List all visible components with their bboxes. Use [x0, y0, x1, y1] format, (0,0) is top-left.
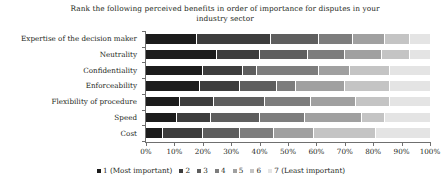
bar-segment[interactable]	[177, 113, 211, 122]
x-axis-tick-label: 0%	[140, 147, 151, 157]
legend-label: 6	[257, 166, 262, 175]
legend-swatch-icon	[179, 169, 183, 173]
bar-segment[interactable]	[274, 128, 314, 137]
bar-segment[interactable]	[390, 97, 430, 106]
bar-segment[interactable]	[308, 50, 345, 59]
legend-label: 3	[203, 166, 208, 175]
y-axis-label: Flexibility of procedure	[0, 94, 141, 110]
y-axis-label: Cost	[0, 125, 141, 141]
bar-segment[interactable]	[200, 81, 240, 90]
x-axis-tick-label: 70%	[337, 147, 353, 157]
bar-segment[interactable]	[296, 81, 344, 90]
bar-segment[interactable]	[410, 50, 430, 59]
stacked-bar[interactable]	[146, 128, 430, 137]
legend-item[interactable]: 2	[179, 166, 190, 175]
bar-segment[interactable]	[214, 97, 265, 106]
bar-segment[interactable]	[265, 97, 310, 106]
stacked-bar[interactable]	[146, 34, 430, 43]
stacked-bar[interactable]	[146, 113, 430, 122]
bar-segment[interactable]	[257, 66, 319, 75]
bar-segment[interactable]	[382, 50, 410, 59]
bar-segment[interactable]	[211, 113, 259, 122]
bar-segment[interactable]	[390, 66, 430, 75]
y-axis-tick	[142, 62, 145, 63]
bar-segment[interactable]	[362, 113, 385, 122]
bar-segment[interactable]	[356, 97, 390, 106]
bar-segment[interactable]	[146, 128, 163, 137]
bar-segment[interactable]	[197, 34, 271, 43]
bar-segment[interactable]	[311, 97, 356, 106]
x-axis-tick-label: 80%	[365, 147, 381, 157]
x-axis-tick	[231, 143, 232, 146]
bar-segment[interactable]	[319, 66, 350, 75]
x-axis-tick-label: 20%	[195, 147, 211, 157]
legend-label: 5	[239, 166, 244, 175]
bar-segment[interactable]	[277, 81, 297, 90]
bar-segment[interactable]	[390, 81, 430, 90]
x-axis-tick	[288, 143, 289, 146]
legend-swatch-icon	[215, 169, 219, 173]
bar-segment[interactable]	[350, 66, 390, 75]
bar-segment[interactable]	[345, 81, 390, 90]
bar-segment[interactable]	[260, 113, 305, 122]
bar-segment[interactable]	[319, 34, 353, 43]
bar-segment[interactable]	[305, 113, 362, 122]
bar-segment[interactable]	[146, 97, 180, 106]
legend-swatch-icon	[268, 169, 272, 173]
y-axis-tick	[142, 47, 145, 48]
bar-segment[interactable]	[314, 128, 376, 137]
bar-segment[interactable]	[146, 34, 197, 43]
bar-segment[interactable]	[146, 81, 200, 90]
x-axis-tick	[146, 143, 147, 146]
bar-segment[interactable]	[203, 128, 240, 137]
bar-segment[interactable]	[217, 50, 260, 59]
stacked-bar[interactable]	[146, 97, 430, 106]
bar-segment[interactable]	[163, 128, 203, 137]
bar-segment[interactable]	[345, 50, 382, 59]
y-axis-label: Confidentiality	[0, 62, 141, 78]
bar-segment[interactable]	[353, 34, 384, 43]
legend-item[interactable]: 6	[250, 166, 261, 175]
legend-label: 7 (Least important)	[274, 166, 345, 175]
bar-row	[146, 110, 430, 126]
legend-item[interactable]: 7 (Least important)	[268, 166, 345, 175]
bar-segment[interactable]	[240, 128, 274, 137]
x-axis-tick-label: 40%	[252, 147, 268, 157]
bar-row	[146, 47, 430, 63]
y-axis-label: Speed	[0, 110, 141, 126]
stacked-bar[interactable]	[146, 66, 430, 75]
bar-segment[interactable]	[146, 66, 203, 75]
x-axis-tick-label: 90%	[394, 147, 410, 157]
legend-item[interactable]: 5	[233, 166, 244, 175]
plot-area	[146, 31, 430, 141]
y-axis-tick	[142, 78, 145, 79]
legend-item[interactable]: 4	[215, 166, 226, 175]
x-axis-tick	[174, 143, 175, 146]
bar-segment[interactable]	[271, 34, 319, 43]
bar-segment[interactable]	[203, 66, 243, 75]
legend-item[interactable]: 3	[197, 166, 208, 175]
y-axis-label: Expertise of the decision maker	[0, 31, 141, 47]
x-axis-tick-labels: 0%10%20%30%40%50%60%70%80%90%100%	[0, 147, 442, 158]
chart-container: Rank the following perceived benefits in…	[0, 0, 442, 184]
x-axis-tick-label: 50%	[280, 147, 296, 157]
bar-segment[interactable]	[385, 113, 430, 122]
bar-segment[interactable]	[385, 34, 411, 43]
y-axis-tick	[142, 94, 145, 95]
bar-segment[interactable]	[376, 128, 430, 137]
bar-segment[interactable]	[146, 50, 217, 59]
legend-item[interactable]: 1 (Most important)	[97, 166, 172, 175]
stacked-bar[interactable]	[146, 81, 430, 90]
bar-segment[interactable]	[243, 66, 257, 75]
bar-segment[interactable]	[240, 81, 277, 90]
x-axis-tick-label: 60%	[308, 147, 324, 157]
bar-segment[interactable]	[180, 97, 214, 106]
y-axis-tick	[142, 31, 145, 32]
x-axis-tick	[260, 143, 261, 146]
x-axis-tick-label: 30%	[223, 147, 239, 157]
stacked-bar[interactable]	[146, 50, 430, 59]
bar-segment[interactable]	[260, 50, 308, 59]
bar-segment[interactable]	[146, 113, 177, 122]
x-axis-tick	[373, 143, 374, 146]
bar-segment[interactable]	[410, 34, 430, 43]
